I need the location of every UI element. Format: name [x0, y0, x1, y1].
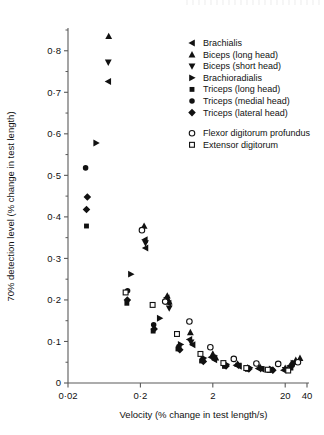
data-point [295, 359, 301, 365]
legend-item[interactable]: Extensor digitorum [190, 140, 278, 150]
y-tick-label: 0·1 [47, 336, 61, 347]
data-point [175, 332, 180, 337]
data-point [105, 78, 111, 85]
data-point [265, 367, 270, 372]
y-tick-label: 0·4 [47, 211, 61, 222]
series-flexor-digitorum-profundus [139, 227, 301, 366]
data-point [187, 319, 193, 325]
data-point [105, 33, 112, 39]
data-point [286, 368, 291, 373]
data-point [84, 224, 89, 229]
data-point [187, 329, 194, 335]
legend-label: Triceps (long head) [203, 84, 280, 94]
legend-marker-square-icon [190, 142, 195, 147]
legend-marker-circle-icon [189, 98, 195, 104]
y-tick-label: 0·2 [47, 294, 61, 305]
legend-label: Flexor digitorum profundus [203, 128, 311, 138]
y-tick-label: 0·6 [47, 128, 61, 139]
legend-item[interactable]: Triceps (medial head) [189, 96, 289, 106]
data-point [105, 60, 112, 66]
series-biceps-long-head [105, 33, 303, 371]
legend-marker-triangle-down-icon [189, 63, 196, 69]
legend-item[interactable]: Biceps (long head) [189, 50, 278, 60]
data-point [231, 356, 237, 362]
y-tick-label: 0·3 [47, 253, 61, 264]
data-point [244, 366, 249, 371]
data-point [157, 315, 163, 322]
data-point [164, 292, 171, 298]
data-point [221, 361, 226, 366]
data-point [166, 305, 173, 311]
x-tick-label: 0·2 [134, 390, 148, 401]
legend-item[interactable]: Triceps (long head) [190, 84, 281, 94]
legend-group: BrachialisBiceps (long head)Biceps (shor… [188, 38, 310, 150]
legend-label: Biceps (short head) [203, 61, 281, 71]
legend-item[interactable]: Biceps (short head) [189, 61, 281, 71]
legend-group-muscles-forearm: Flexor digitorum profundusExtensor digit… [189, 128, 310, 150]
data-point [254, 361, 260, 367]
figure-container: 00·10·20·30·40·50·60·70·80·020·222040 Br… [0, 0, 324, 435]
legend-marker-circle-icon [189, 130, 195, 136]
data-point [275, 361, 281, 367]
legend-marker-triangle-up-icon [189, 51, 196, 57]
x-axis-title: Velocity (% change in test length/s) [120, 409, 268, 420]
y-tick-label: 0·7 [47, 87, 61, 98]
scatter-plot: 00·10·20·30·40·50·60·70·80·020·222040 Br… [0, 0, 324, 435]
series-triceps-long-head [84, 224, 293, 373]
data-point [150, 302, 155, 307]
y-tick-label: 0·5 [47, 170, 61, 181]
legend-item[interactable]: Triceps (lateral head) [188, 108, 287, 118]
data-point [162, 299, 168, 305]
y-tick-label: 0 [56, 377, 61, 388]
y-axis-title: 70% detection level (% change in test le… [5, 111, 16, 301]
series-extensor-digitorum [123, 290, 290, 373]
data-point [198, 351, 203, 356]
data-point [123, 290, 128, 295]
data-point [84, 193, 92, 201]
data-point [139, 227, 145, 233]
legend-item[interactable]: Brachioradialis [189, 73, 262, 83]
x-tick-label: 40 [302, 390, 313, 401]
legend-group-muscles-upper-arm: BrachialisBiceps (long head)Biceps (shor… [188, 38, 289, 118]
legend-marker-triangle-left-icon [188, 40, 194, 47]
legend-item[interactable]: Brachialis [188, 38, 242, 48]
x-tick-label: 2 [210, 390, 215, 401]
legend-label: Triceps (medial head) [203, 96, 290, 106]
x-tick-label: 20 [280, 390, 291, 401]
legend-label: Extensor digitorum [203, 140, 278, 150]
data-point [83, 206, 91, 214]
series-brachialis [105, 78, 293, 373]
series-brachioradialis [93, 140, 297, 373]
legend-label: Biceps (long head) [203, 50, 278, 60]
y-tick-label: 0·8 [47, 45, 61, 56]
data-point [128, 271, 134, 278]
legend-label: Brachioradialis [203, 73, 263, 83]
axis-labels-group: Velocity (% change in test length/s)70% … [5, 111, 267, 420]
legend-marker-diamond-icon [188, 109, 196, 117]
series-triceps-lateral-head [83, 193, 297, 374]
data-point [93, 140, 99, 147]
x-tick-label: 0·02 [58, 390, 77, 401]
data-point [208, 345, 214, 351]
legend-marker-triangle-right-icon [189, 74, 195, 81]
legend-item[interactable]: Flexor digitorum profundus [189, 128, 310, 138]
data-point [83, 165, 89, 171]
legend-marker-square-icon [190, 87, 195, 92]
legend-label: Brachialis [203, 38, 243, 48]
legend-label: Triceps (lateral head) [203, 108, 288, 118]
scan-artifact [186, 0, 324, 5]
